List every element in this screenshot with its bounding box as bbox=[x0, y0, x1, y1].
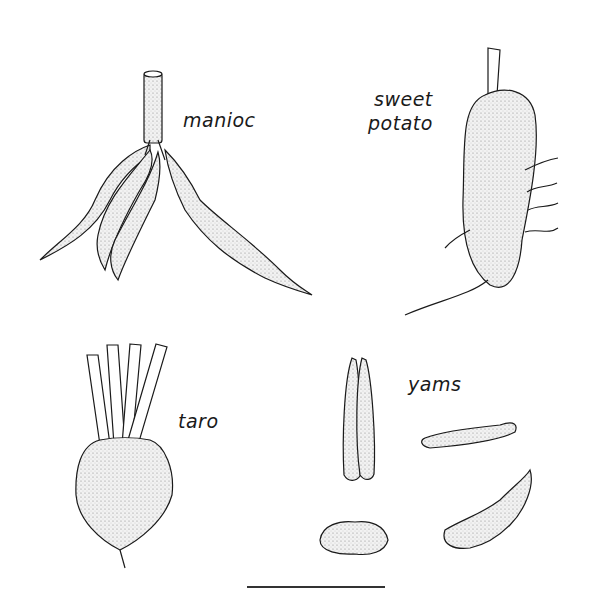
label-yams: yams bbox=[408, 373, 461, 395]
label-sweet-line2: potato bbox=[368, 112, 433, 134]
manioc-drawing bbox=[40, 71, 312, 295]
separator-rule bbox=[247, 586, 385, 588]
label-taro: taro bbox=[178, 410, 219, 432]
label-sweet-line1: sweet bbox=[374, 88, 433, 110]
drawings bbox=[0, 0, 602, 605]
taro-drawing bbox=[76, 344, 173, 568]
label-manioc: manioc bbox=[183, 109, 256, 131]
root-crops-illustration: manioc sweet potato taro yams bbox=[0, 0, 602, 605]
